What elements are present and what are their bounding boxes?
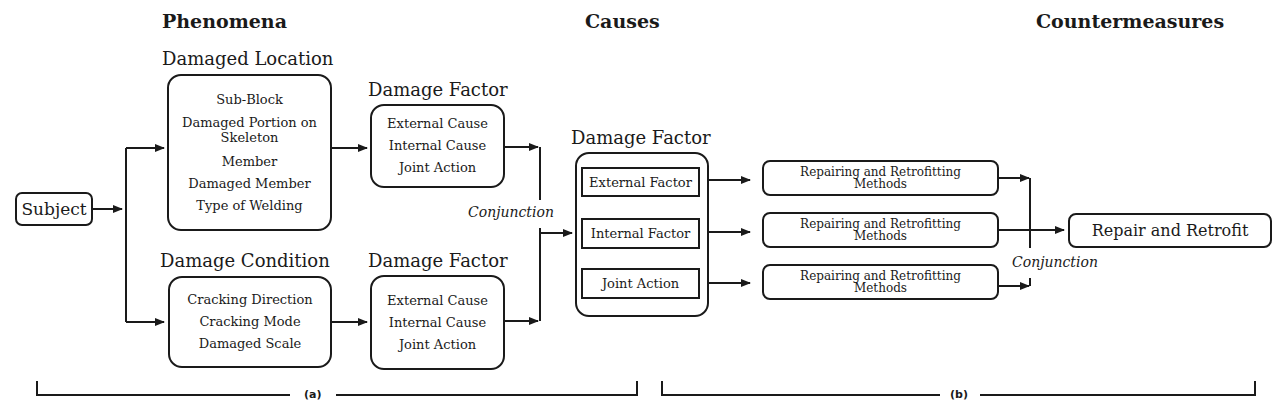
bracket-label-b: (b) bbox=[944, 388, 974, 401]
method-box-2: Repairing and Retrofitting Methods bbox=[762, 212, 999, 248]
section-heading-phenomena: Phenomena bbox=[162, 10, 287, 32]
bracket-label-a: (a) bbox=[298, 388, 327, 401]
item-type-of-welding: Type of Welding bbox=[196, 195, 302, 217]
section-heading-causes: Causes bbox=[585, 10, 660, 32]
item-skeleton: Skeleton bbox=[221, 130, 279, 145]
conjunction-label-left: Conjunction bbox=[468, 204, 554, 220]
damaged-location-box: Sub-Block Damaged Portion on Skeleton Me… bbox=[167, 74, 332, 231]
item-joint-action: Joint Action bbox=[399, 334, 476, 356]
conjunction-label-right: Conjunction bbox=[1012, 254, 1098, 270]
item-external-cause: External Cause bbox=[387, 113, 488, 135]
damaged-location-title: Damaged Location bbox=[162, 48, 333, 69]
damage-factor-top-box: External Cause Internal Cause Joint Acti… bbox=[370, 104, 505, 188]
item-sub-block: Sub-Block bbox=[216, 89, 283, 111]
item-cracking-direction: Cracking Direction bbox=[187, 289, 312, 311]
item-joint-action: Joint Action bbox=[399, 157, 476, 179]
method-box-1: Repairing and Retrofitting Methods bbox=[762, 160, 999, 196]
item-internal-cause: Internal Cause bbox=[389, 312, 487, 334]
damage-condition-box: Cracking Direction Cracking Mode Damaged… bbox=[168, 276, 332, 368]
damage-factor-bottom-box: External Cause Internal Cause Joint Acti… bbox=[370, 275, 505, 370]
item-internal-cause: Internal Cause bbox=[389, 135, 487, 157]
item-damaged-scale: Damaged Scale bbox=[199, 333, 302, 355]
section-heading-countermeasures: Countermeasures bbox=[1036, 10, 1224, 32]
item-damaged-portion: Damaged Portion on bbox=[182, 115, 317, 130]
damage-factor-bottom-title: Damage Factor bbox=[368, 250, 508, 271]
method-box-3: Repairing and Retrofitting Methods bbox=[762, 264, 999, 300]
subject-node: Subject bbox=[15, 192, 93, 226]
method-line2: Methods bbox=[854, 282, 907, 294]
damage-factor-causes-title: Damage Factor bbox=[571, 127, 711, 148]
item-member: Member bbox=[222, 151, 278, 173]
joint-action-box: Joint Action bbox=[581, 268, 700, 299]
result-label: Repair and Retrofit bbox=[1092, 221, 1249, 240]
external-factor-box: External Factor bbox=[581, 167, 700, 197]
damage-condition-title: Damage Condition bbox=[160, 250, 330, 271]
subject-label: Subject bbox=[21, 199, 86, 219]
method-line2: Methods bbox=[854, 230, 907, 242]
item-cracking-mode: Cracking Mode bbox=[199, 311, 300, 333]
internal-factor-box: Internal Factor bbox=[581, 218, 700, 249]
method-line2: Methods bbox=[854, 178, 907, 190]
item-external-cause: External Cause bbox=[387, 290, 488, 312]
item-damaged-member: Damaged Member bbox=[188, 173, 310, 195]
damage-factor-top-title: Damage Factor bbox=[368, 79, 508, 100]
repair-and-retrofit-node: Repair and Retrofit bbox=[1068, 213, 1272, 248]
